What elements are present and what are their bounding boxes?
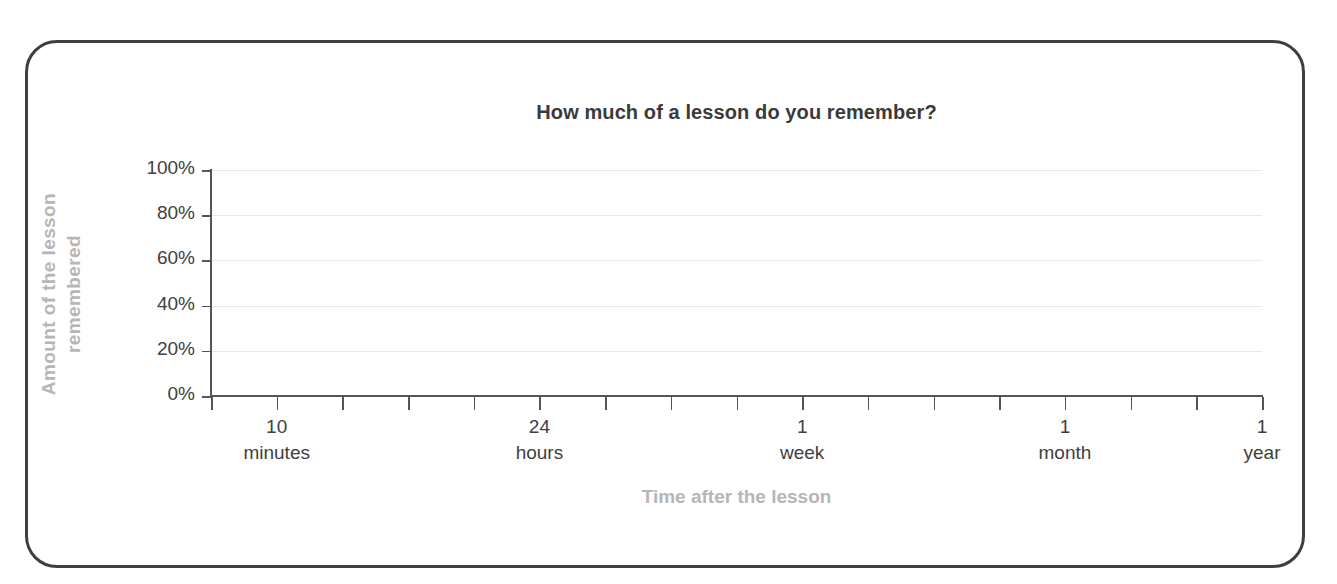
x-axis-tick-mark <box>999 397 1001 410</box>
y-axis-title-line-1: Amount of the lesson <box>36 164 61 424</box>
x-axis-tick-label-line-2: year <box>1187 440 1337 466</box>
x-axis-tick-mark <box>1065 397 1067 410</box>
y-axis-line <box>210 169 212 397</box>
x-axis-tick-label-line-1: 10 <box>202 414 352 440</box>
y-axis-tick-label: 60% <box>127 247 195 269</box>
y-axis-tick-label: 80% <box>127 202 195 224</box>
x-axis-tick-mark <box>737 397 739 410</box>
x-axis-tick-mark <box>277 397 279 410</box>
x-axis-tick-mark <box>868 397 870 410</box>
gridline <box>211 215 1262 216</box>
x-axis-tick-mark <box>1131 397 1133 410</box>
x-axis-tick-label: 1week <box>727 414 877 466</box>
y-axis-tick-mark <box>202 396 211 398</box>
plot-area <box>211 170 1262 396</box>
x-axis-tick-label: 10minutes <box>202 414 352 466</box>
gridline <box>211 306 1262 307</box>
x-axis-tick-label-line-2: minutes <box>202 440 352 466</box>
x-axis-tick-label-line-2: month <box>990 440 1140 466</box>
x-axis-tick-mark <box>1262 397 1264 410</box>
y-axis-tick-label: 0% <box>127 383 195 405</box>
x-axis-tick-mark <box>802 397 804 410</box>
x-axis-tick-label-line-1: 24 <box>464 414 614 440</box>
x-axis-tick-mark <box>211 397 213 410</box>
x-axis-tick-label-line-2: week <box>727 440 877 466</box>
y-axis-tick-mark <box>202 351 211 353</box>
x-axis-tick-mark <box>605 397 607 410</box>
chart-title: How much of a lesson do you remember? <box>211 101 1262 124</box>
y-axis-tick-labels: 0%20%40%60%80%100% <box>120 0 195 584</box>
screenshot-root: How much of a lesson do you remember? Am… <box>0 0 1337 584</box>
y-axis-tick-label: 100% <box>127 157 195 179</box>
gridline <box>211 260 1262 261</box>
x-axis-tick-label: 1month <box>990 414 1140 466</box>
x-axis-tick-mark <box>342 397 344 410</box>
gridline <box>211 351 1262 352</box>
x-axis-tick-mark <box>934 397 936 410</box>
x-axis-tick-label-line-1: 1 <box>727 414 877 440</box>
y-axis-title-line-2: remembered <box>61 164 86 424</box>
y-axis-tick-mark <box>202 306 211 308</box>
y-axis-title: Amount of the lesson remembered <box>36 164 88 424</box>
x-axis-title: Time after the lesson <box>211 486 1262 508</box>
x-axis-tick-mark <box>1196 397 1198 410</box>
x-axis-tick-mark <box>539 397 541 410</box>
x-axis-tick-mark <box>408 397 410 410</box>
x-axis-tick-label-line-2: hours <box>464 440 614 466</box>
x-axis-tick-label-line-1: 1 <box>1187 414 1337 440</box>
y-axis-tick-label: 20% <box>127 338 195 360</box>
x-axis-tick-label: 24hours <box>464 414 614 466</box>
gridline <box>211 170 1262 171</box>
y-axis-tick-mark <box>202 215 211 217</box>
y-axis-tick-mark <box>202 260 211 262</box>
x-axis-tick-mark <box>671 397 673 410</box>
chart: How much of a lesson do you remember? Am… <box>0 0 1337 584</box>
x-axis-tick-label: 1year <box>1187 414 1337 466</box>
y-axis-tick-label: 40% <box>127 293 195 315</box>
y-axis-tick-mark <box>202 170 211 172</box>
x-axis-tick-label-line-1: 1 <box>990 414 1140 440</box>
x-axis-tick-mark <box>474 397 476 410</box>
